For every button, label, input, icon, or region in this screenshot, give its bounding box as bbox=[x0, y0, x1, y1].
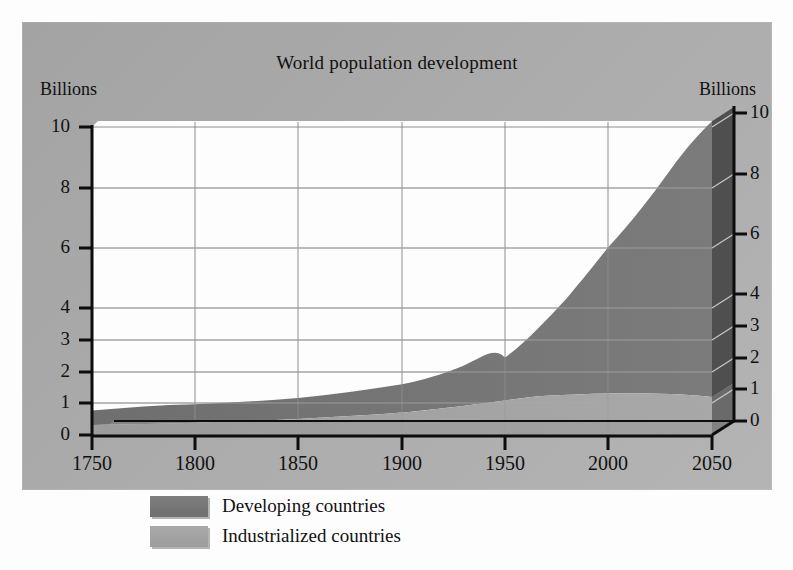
y-tick-label-left-10: 10 bbox=[24, 115, 70, 137]
y-tick-label-right-1: 1 bbox=[750, 377, 793, 399]
legend-label-industrialized: Industrialized countries bbox=[222, 525, 401, 547]
y-tick-label-left-0: 0 bbox=[24, 423, 70, 445]
floor-face bbox=[92, 421, 734, 435]
y-tick-label-right-6: 6 bbox=[750, 222, 793, 244]
y-tick-label-left-8: 8 bbox=[24, 176, 70, 198]
y-tick-label-right-2: 2 bbox=[750, 346, 793, 368]
depth-face-developing bbox=[712, 107, 734, 397]
legend-label-developing: Developing countries bbox=[222, 495, 385, 517]
y-tick-label-right-3: 3 bbox=[750, 314, 793, 336]
chart-page: World population development Billions Bi… bbox=[0, 0, 793, 570]
chart-frame: World population development Billions Bi… bbox=[22, 22, 772, 490]
x-tick-label-1900: 1900 bbox=[357, 452, 447, 475]
y-tick-label-left-4: 4 bbox=[24, 296, 70, 318]
y-tick-label-right-4: 4 bbox=[750, 282, 793, 304]
y-axis-left-ticks bbox=[79, 127, 92, 435]
plot-area: 10 8 6 4 3 2 1 0 10 8 6 4 3 2 1 0 1750 1… bbox=[22, 22, 772, 490]
y-tick-label-right-10: 10 bbox=[750, 101, 793, 123]
industrialized-swatch bbox=[150, 526, 208, 547]
y-tick-label-right-0: 0 bbox=[750, 409, 793, 431]
x-tick-label-1750: 1750 bbox=[47, 452, 137, 475]
legend-item-developing: Developing countries bbox=[150, 492, 570, 520]
y-tick-label-left-6: 6 bbox=[24, 236, 70, 258]
chart-svg bbox=[22, 22, 772, 490]
chart-legend: Developing countries Industrialized coun… bbox=[150, 492, 570, 552]
y-tick-label-left-1: 1 bbox=[24, 391, 70, 413]
y-axis-right-ticks bbox=[734, 113, 747, 421]
y-tick-label-left-3: 3 bbox=[24, 328, 70, 350]
y-tick-label-right-8: 8 bbox=[750, 162, 793, 184]
x-tick-label-1950: 1950 bbox=[460, 452, 550, 475]
y-tick-label-left-2: 2 bbox=[24, 360, 70, 382]
x-tick-label-1850: 1850 bbox=[253, 452, 343, 475]
developing-swatch bbox=[150, 496, 208, 517]
x-axis-ticks bbox=[92, 436, 712, 450]
x-tick-label-2000: 2000 bbox=[563, 452, 653, 475]
x-tick-label-1800: 1800 bbox=[150, 452, 240, 475]
legend-item-industrialized: Industrialized countries bbox=[150, 522, 570, 550]
x-tick-label-2050: 2050 bbox=[667, 452, 757, 475]
